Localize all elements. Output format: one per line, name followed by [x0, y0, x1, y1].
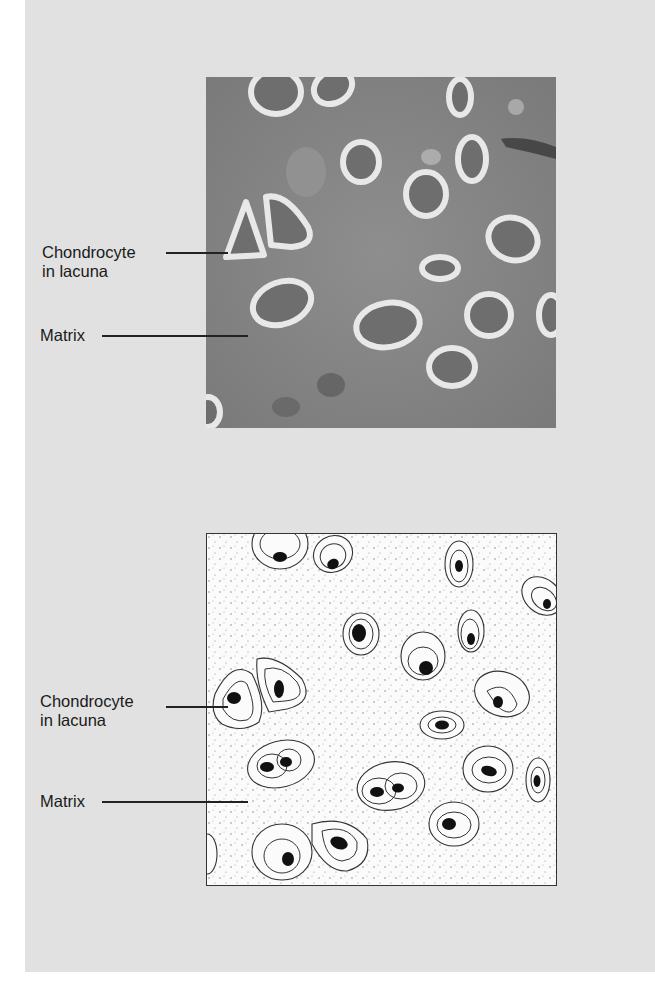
leader-line-matrix-bottom [102, 801, 248, 803]
line-drawing-illustration [207, 534, 556, 885]
leader-line-chondrocyte-top [166, 252, 228, 254]
label-matrix-bottom: Matrix [40, 792, 85, 811]
leader-line-matrix-top [102, 335, 248, 337]
label-matrix-top: Matrix [40, 326, 85, 345]
line-drawing-image [206, 533, 557, 886]
leader-line-chondrocyte-bottom [166, 706, 228, 708]
label-chondrocyte-top: Chondrocyte in lacuna [42, 243, 136, 281]
micrograph-image [206, 77, 556, 428]
micrograph-illustration [206, 77, 556, 428]
label-chondrocyte-bottom: Chondrocyte in lacuna [40, 692, 134, 730]
